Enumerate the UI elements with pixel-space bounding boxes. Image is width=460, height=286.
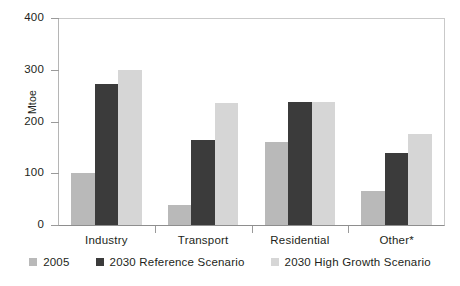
legend-item[interactable]: 2030 Reference Scenario xyxy=(96,256,245,268)
y-axis-tick-label: 300 xyxy=(0,63,44,75)
legend-item[interactable]: 2005 xyxy=(29,256,69,268)
legend-label: 2030 Reference Scenario xyxy=(110,256,245,268)
x-axis-category-label: Residential xyxy=(252,234,349,246)
bar xyxy=(288,102,312,225)
legend-label: 2030 High Growth Scenario xyxy=(285,256,431,268)
bar xyxy=(118,70,142,225)
bar xyxy=(191,140,215,225)
y-axis-tick-label: 200 xyxy=(0,115,44,127)
bar-chart: Mtoe 0100200300400 IndustryTransportResi… xyxy=(0,0,460,286)
x-axis-tick xyxy=(348,226,349,233)
bar xyxy=(215,103,239,225)
bar xyxy=(312,102,336,225)
bar xyxy=(71,173,95,225)
bars-layer xyxy=(58,18,445,225)
bar xyxy=(95,84,119,225)
x-axis-category-label: Transport xyxy=(155,234,252,246)
y-axis-tick xyxy=(51,225,59,226)
legend-swatch-icon xyxy=(29,258,37,266)
x-axis-category-label: Industry xyxy=(58,234,155,246)
bar xyxy=(265,142,289,225)
bar xyxy=(361,191,385,225)
bar xyxy=(385,153,409,225)
y-axis-tick-label: 400 xyxy=(0,11,44,23)
bar xyxy=(408,134,432,225)
legend-item[interactable]: 2030 High Growth Scenario xyxy=(271,256,431,268)
legend-swatch-icon xyxy=(96,258,104,266)
chart-legend: 20052030 Reference Scenario2030 High Gro… xyxy=(0,256,460,268)
x-axis-category-label: Other* xyxy=(348,234,445,246)
x-axis-tick xyxy=(252,226,253,233)
x-axis-tick xyxy=(155,226,156,233)
bar xyxy=(168,205,192,225)
y-axis-tick-label: 100 xyxy=(0,166,44,178)
legend-swatch-icon xyxy=(271,258,279,266)
legend-label: 2005 xyxy=(43,256,69,268)
y-axis-tick-label: 0 xyxy=(0,218,44,230)
